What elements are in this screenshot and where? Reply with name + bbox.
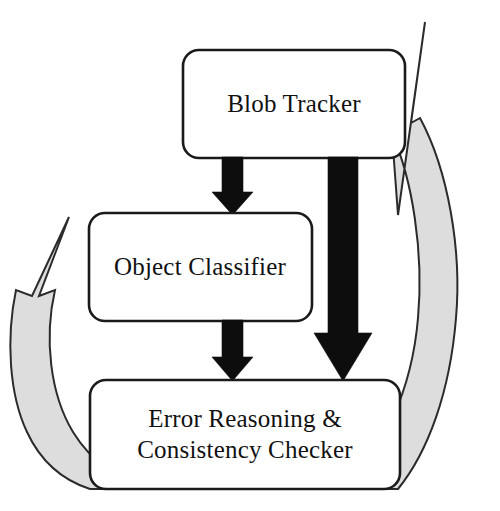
- node-error-reasoning-shape: [90, 380, 400, 489]
- diagram-canvas: Blob Tracker Object Classifier Error Rea…: [0, 0, 500, 511]
- node-blob-tracker-label: Blob Tracker: [227, 90, 361, 117]
- node-error-reasoning-label-line2: Consistency Checker: [137, 436, 353, 463]
- node-object-classifier[interactable]: Object Classifier: [89, 213, 312, 321]
- arrow-blob-tracker-to-object-classifier: [212, 157, 253, 215]
- node-error-reasoning-label-line1: Error Reasoning &: [148, 405, 342, 432]
- node-blob-tracker[interactable]: Blob Tracker: [183, 50, 405, 158]
- node-object-classifier-label: Object Classifier: [114, 253, 287, 280]
- node-error-reasoning-consistency-checker[interactable]: Error Reasoning & Consistency Checker: [90, 380, 400, 489]
- architecture-flow-diagram: Blob Tracker Object Classifier Error Rea…: [0, 0, 500, 511]
- arrow-blob-tracker-to-error-reasoning: [314, 157, 372, 381]
- arrow-object-classifier-to-error-reasoning: [212, 320, 253, 381]
